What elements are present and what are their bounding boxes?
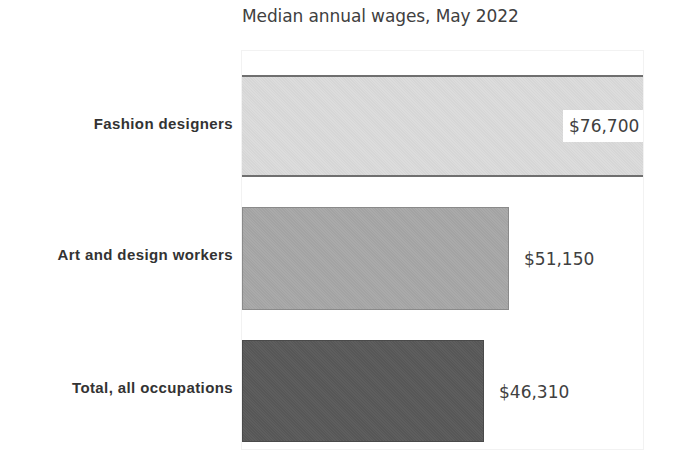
bar-art-and-design-workers xyxy=(242,207,509,310)
value-label-total-all-occupations: $46,310 xyxy=(499,382,569,402)
bar-total-all-occupations xyxy=(242,340,484,442)
value-label-art-and-design-workers: $51,150 xyxy=(524,249,594,269)
value-label-fashion-designers: $76,700 xyxy=(563,110,643,142)
category-label-fashion-designers: Fashion designers xyxy=(94,115,233,132)
chart-title: Median annual wages, May 2022 xyxy=(242,6,519,26)
category-label-art-and-design-workers: Art and design workers xyxy=(57,246,233,263)
category-label-total-all-occupations: Total, all occupations xyxy=(72,379,233,396)
